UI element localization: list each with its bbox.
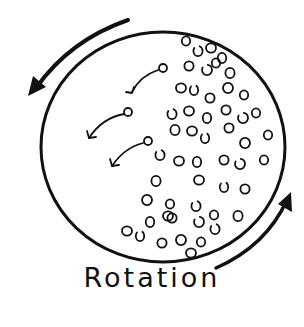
particle — [176, 235, 186, 245]
particle — [136, 231, 144, 241]
particle — [190, 85, 198, 95]
particle — [238, 113, 248, 123]
bottom-right-rotation-arrow — [216, 192, 292, 268]
particle — [224, 123, 233, 132]
particle — [142, 195, 152, 205]
particle — [184, 106, 194, 115]
particle — [157, 238, 166, 247]
particle — [191, 201, 200, 211]
particle-cluster — [122, 36, 272, 257]
particle — [240, 90, 248, 99]
particle — [184, 61, 193, 70]
particle — [194, 175, 204, 184]
particle — [201, 133, 209, 143]
particle — [218, 53, 226, 63]
particle — [174, 156, 184, 165]
particle — [197, 237, 205, 246]
particle — [167, 109, 176, 119]
particle — [210, 210, 218, 219]
particle — [170, 125, 179, 135]
particle — [182, 36, 190, 45]
particle — [240, 184, 249, 193]
particle — [225, 68, 234, 78]
particle — [122, 226, 132, 235]
particle — [212, 58, 220, 67]
rotation-label: Rotation — [0, 262, 304, 293]
particle — [203, 113, 211, 123]
particle — [220, 182, 228, 192]
particle — [206, 43, 216, 52]
particle — [193, 46, 202, 56]
ejection-arrows — [87, 64, 167, 166]
particle — [223, 83, 233, 93]
particle — [235, 159, 245, 169]
top-left-rotation-arrow — [28, 20, 128, 96]
particle — [260, 155, 268, 164]
particle — [210, 224, 219, 234]
particle — [166, 199, 174, 208]
particle — [221, 105, 230, 114]
particle — [240, 138, 250, 148]
particle — [193, 157, 201, 167]
particle — [194, 217, 204, 227]
particle — [233, 211, 242, 221]
particle — [176, 83, 186, 92]
particle — [264, 130, 272, 139]
particle — [252, 108, 260, 117]
particle — [205, 93, 214, 102]
particle — [219, 155, 228, 164]
particle — [146, 217, 154, 227]
particle — [187, 126, 197, 135]
particle — [186, 248, 196, 257]
particle — [155, 150, 164, 160]
particle — [151, 176, 160, 186]
arrowhead-icon — [278, 192, 292, 212]
particle — [202, 65, 212, 75]
